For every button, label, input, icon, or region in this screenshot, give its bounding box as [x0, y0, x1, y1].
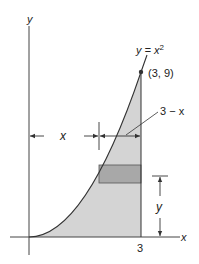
shaded-region: [29, 72, 141, 237]
x-tick-label: 3: [137, 242, 143, 254]
curve-label: y = x2: [135, 43, 165, 56]
strip-label: 3 − x: [160, 105, 185, 117]
point-label: (3, 9): [148, 67, 174, 79]
x-axis-label: x: [180, 231, 187, 243]
y-height-label: y: [155, 200, 163, 214]
horizontal-strip: [99, 165, 141, 183]
diagram: y x 3 y = x2 (3, 9) 3 − x x y: [0, 0, 199, 264]
point-3-9: [139, 70, 143, 74]
x-distance-label: x: [59, 129, 67, 143]
y-axis-label: y: [26, 13, 34, 25]
